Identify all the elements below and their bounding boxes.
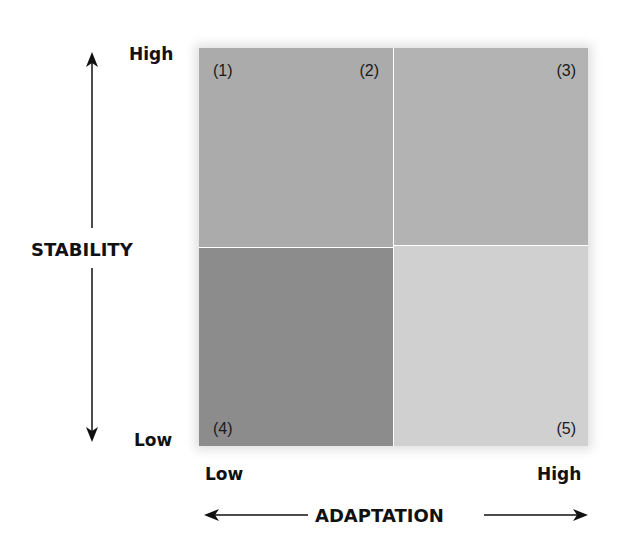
y-axis-title: STABILITY [31,239,133,260]
x-axis-high-label: High [537,464,581,484]
quadrant-label-3: (3) [556,62,576,80]
matrix-grid: (1) (2) (3) (4) (5) [199,48,588,446]
y-axis-high-label: High [129,44,173,64]
quadrant-top-left: (1) (2) [199,48,393,247]
quadrant-label-2: (2) [359,62,379,80]
quadrant-bottom-left: (4) [199,248,393,446]
quadrant-label-1: (1) [213,62,233,80]
x-axis-title: ADAPTATION [315,505,444,526]
quadrant-bottom-right: (5) [394,246,588,446]
x-axis-low-label: Low [205,464,243,484]
quadrant-label-4: (4) [213,420,233,438]
y-axis-low-label: Low [134,430,172,450]
quadrant-label-5: (5) [556,420,576,438]
quadrant-top-right: (3) [394,48,588,245]
